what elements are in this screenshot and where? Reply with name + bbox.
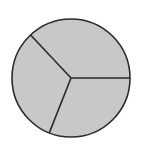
pie-chart: [0, 0, 142, 148]
